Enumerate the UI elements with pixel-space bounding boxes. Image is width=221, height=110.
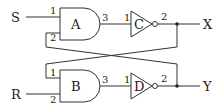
gate-d-pin1: 1 <box>124 74 130 85</box>
input-s-label: S <box>11 10 20 25</box>
gate-b-label: B <box>71 79 81 94</box>
gate-d-label: D <box>134 79 144 94</box>
gate-c-bubble <box>153 22 158 27</box>
gate-a-label: A <box>70 17 81 32</box>
gate-b-pin1: 1 <box>50 67 56 78</box>
gate-d-bubble <box>153 84 158 89</box>
gate-d-pin2: 2 <box>161 73 167 84</box>
output-y-label: Y <box>202 79 212 94</box>
gate-b-pin2: 2 <box>50 94 56 105</box>
gate-b-pin3: 3 <box>102 74 108 85</box>
gate-a-pin2: 2 <box>50 32 56 43</box>
gate-a-pin3: 3 <box>102 12 108 23</box>
gate-c-pin2: 2 <box>161 11 167 22</box>
gate-a-pin1: 1 <box>50 5 56 16</box>
gate-c-pin1: 1 <box>124 12 130 23</box>
circuit-diagram: S 1 2 A 3 1 C 2 X R 1 2 B 3 1 D 2 Y <box>0 0 221 110</box>
output-x-label: X <box>203 17 213 32</box>
input-r-label: R <box>11 87 22 102</box>
gate-c-label: C <box>134 17 144 32</box>
